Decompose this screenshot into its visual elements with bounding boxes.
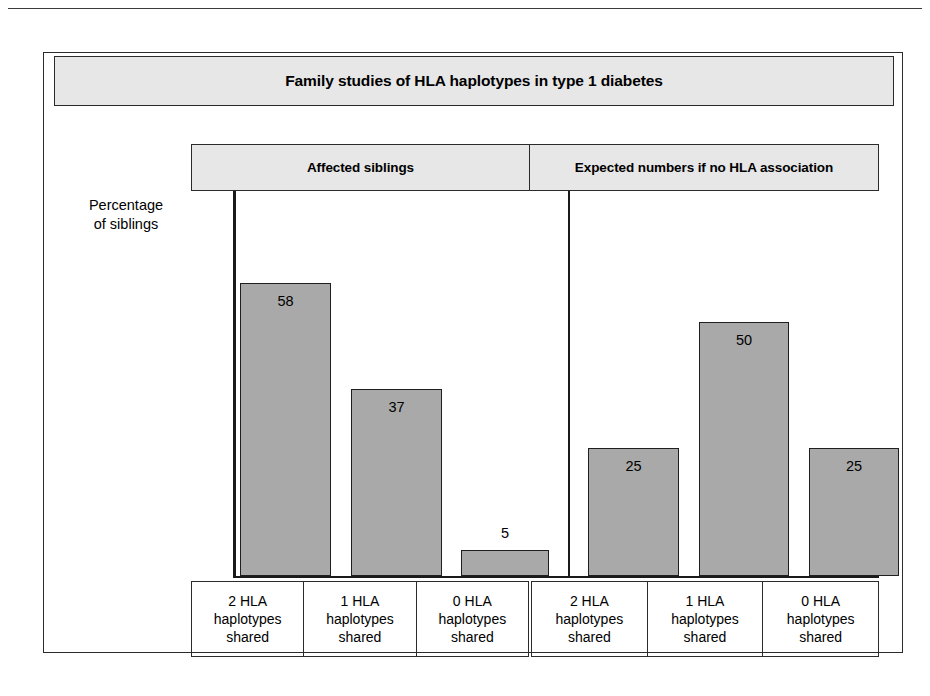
category-label-group-affected: 2 HLA haplotypes shared 1 HLA haplotypes… xyxy=(191,581,529,657)
bar-value-affected-1hla: 37 xyxy=(352,399,441,415)
category-label-line2: haplotypes xyxy=(326,610,394,628)
bar-expected-1hla: 50 xyxy=(699,322,789,576)
bar-value-expected-1hla: 50 xyxy=(700,332,788,348)
bar-value-expected-0hla: 25 xyxy=(810,458,898,474)
category-label-row: 2 HLA haplotypes shared 1 HLA haplotypes… xyxy=(191,581,879,657)
category-label-affected-0hla: 0 HLA haplotypes shared xyxy=(417,582,528,656)
figure-title-banner: Family studies of HLA haplotypes in type… xyxy=(54,56,894,106)
bar-affected-0hla: 5 xyxy=(461,550,549,576)
y-axis-line xyxy=(233,191,236,578)
bar-expected-2hla: 25 xyxy=(588,448,679,576)
category-label-group-expected: 2 HLA haplotypes shared 1 HLA haplotypes… xyxy=(531,581,879,657)
category-label-line1: 0 HLA xyxy=(801,592,840,610)
category-label-line3: shared xyxy=(339,628,382,646)
panel-header-expected-numbers: Expected numbers if no HLA association xyxy=(530,145,878,190)
bar-value-affected-0hla: 5 xyxy=(462,525,548,541)
category-label-line2: haplotypes xyxy=(555,610,623,628)
panel-divider-line xyxy=(568,191,570,578)
category-label-line1: 1 HLA xyxy=(341,592,380,610)
category-label-line1: 2 HLA xyxy=(570,592,609,610)
category-label-expected-1hla: 1 HLA haplotypes shared xyxy=(648,582,764,656)
category-label-expected-0hla: 0 HLA haplotypes shared xyxy=(763,582,878,656)
page-top-rule xyxy=(8,8,922,9)
category-label-line3: shared xyxy=(684,628,727,646)
y-axis-caption: Percentage of siblings xyxy=(61,196,191,234)
y-axis-caption-line2: of siblings xyxy=(61,215,191,234)
category-label-line3: shared xyxy=(568,628,611,646)
chart-block: Affected siblings Expected numbers if no… xyxy=(191,144,879,601)
panel-header-row: Affected siblings Expected numbers if no… xyxy=(191,144,879,191)
category-label-line3: shared xyxy=(451,628,494,646)
category-label-expected-2hla: 2 HLA haplotypes shared xyxy=(532,582,648,656)
bar-affected-1hla: 37 xyxy=(351,389,442,576)
bar-expected-0hla: 25 xyxy=(809,448,899,576)
category-label-line1: 2 HLA xyxy=(228,592,267,610)
category-label-line2: haplotypes xyxy=(438,610,506,628)
category-label-line2: haplotypes xyxy=(214,610,282,628)
category-label-line2: haplotypes xyxy=(671,610,739,628)
category-label-line1: 0 HLA xyxy=(453,592,492,610)
category-label-line3: shared xyxy=(799,628,842,646)
panel-header-affected-siblings: Affected siblings xyxy=(192,145,530,190)
figure-frame: Family studies of HLA haplotypes in type… xyxy=(43,52,903,653)
category-label-line3: shared xyxy=(226,628,269,646)
bar-value-affected-2hla: 58 xyxy=(241,293,330,309)
y-axis-caption-line1: Percentage xyxy=(61,196,191,215)
bar-value-expected-2hla: 25 xyxy=(589,458,678,474)
figure-title: Family studies of HLA haplotypes in type… xyxy=(285,72,663,90)
category-label-affected-1hla: 1 HLA haplotypes shared xyxy=(304,582,416,656)
plot-region: 58 37 5 25 50 25 xyxy=(191,191,879,578)
category-label-line1: 1 HLA xyxy=(686,592,725,610)
x-axis-baseline xyxy=(233,576,879,578)
category-label-line2: haplotypes xyxy=(787,610,855,628)
bar-affected-2hla: 58 xyxy=(240,283,331,576)
category-label-affected-2hla: 2 HLA haplotypes shared xyxy=(192,582,304,656)
